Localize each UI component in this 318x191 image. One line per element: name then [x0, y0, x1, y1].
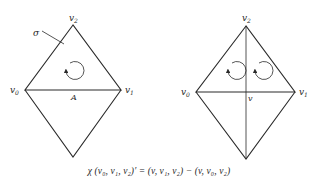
edge-label-a: A [70, 93, 77, 102]
left-upper-triangle [25, 25, 121, 90]
vertex-v1-right: v1 [299, 87, 308, 98]
vertex-v0-right: v0 [181, 87, 190, 98]
sigma-leader-line [42, 31, 64, 44]
left-diamond: v2 v0 v1 σ A [10, 13, 134, 157]
subdivision-diagram: v2 v0 v1 σ A v2 v0 v1 v [0, 0, 318, 191]
orientation-arrow-right-icon [255, 61, 273, 79]
formula-caption: χ (v₀, v₁, v₂)′ = (v, v₁, v₂) − (v, v₀, … [0, 166, 318, 176]
vertex-v2-right: v2 [242, 13, 251, 24]
right-diamond: v2 v0 v1 v [181, 13, 308, 159]
sigma-label: σ [33, 28, 40, 38]
right-upper-triangle [196, 26, 295, 92]
right-lower-triangle [196, 92, 295, 159]
center-vertex-v: v [248, 94, 253, 103]
orientation-arrow-icon [66, 61, 84, 79]
vertex-v1-left: v1 [125, 85, 134, 96]
vertex-v0-left: v0 [10, 85, 19, 96]
vertex-v2-left: v2 [69, 13, 78, 24]
orientation-arrow-left-icon [228, 61, 246, 79]
